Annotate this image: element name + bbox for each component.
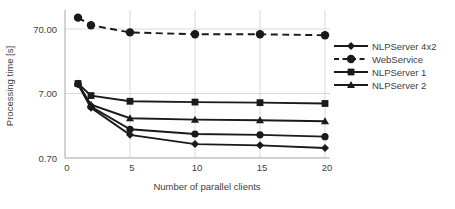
diamond-marker [256, 141, 264, 149]
legend-item-nlpserver-2: NLPServer 2 [334, 80, 426, 91]
x-axis-title: Number of parallel clients [153, 181, 260, 192]
circle-marker [126, 126, 133, 133]
x-tick-label: 15 [257, 162, 268, 173]
legend-item-nlpserver-1: NLPServer 1 [334, 67, 426, 78]
y-tick-label: 7.00 [39, 88, 58, 99]
circle-marker [74, 80, 81, 87]
square-marker [348, 69, 355, 76]
circle-marker [87, 103, 94, 110]
diamond-marker [321, 144, 329, 152]
x-tick-label: 0 [64, 162, 69, 173]
square-marker [257, 99, 264, 106]
circle-marker [321, 133, 328, 140]
x-tick-label: 20 [322, 162, 333, 173]
legend-label: NLPServer 1 [372, 67, 426, 78]
circle-marker [191, 30, 199, 38]
circle-marker [347, 55, 355, 63]
chart-svg: 70.007.000.70 05101520 Processing time [… [0, 0, 455, 209]
legend-label: NLPServer 2 [372, 80, 426, 91]
legend-item-nlpserver-4x2: NLPServer 4x2 [334, 41, 436, 52]
processing-time-chart: 70.007.000.70 05101520 Processing time [… [0, 0, 455, 209]
square-marker [88, 92, 95, 99]
square-marker [192, 99, 199, 106]
legend-label: NLPServer 4x2 [372, 41, 436, 52]
series-line-unlabeled [78, 84, 325, 137]
x-tick-label: 10 [192, 162, 203, 173]
y-tick-label: 0.70 [39, 153, 58, 164]
y-axis-title: Processing time [s] [4, 46, 15, 126]
series-lines [74, 13, 329, 152]
legend-item-webservice: WebService [334, 54, 423, 65]
x-tick-labels: 05101520 [64, 162, 332, 173]
circle-marker [74, 13, 82, 21]
square-marker [127, 98, 134, 105]
circle-marker [256, 131, 263, 138]
circle-marker [256, 30, 264, 38]
square-marker [322, 100, 329, 107]
circle-marker [126, 28, 134, 36]
circle-marker [321, 31, 329, 39]
diamond-marker [191, 140, 199, 148]
circle-marker [191, 130, 198, 137]
diamond-marker [347, 42, 355, 50]
legend: NLPServer 4x2WebServiceNLPServer 1NLPSer… [334, 41, 436, 91]
x-tick-label: 5 [129, 162, 134, 173]
legend-label: WebService [372, 54, 423, 65]
series-line-webservice [78, 18, 325, 36]
y-tick-labels: 70.007.000.70 [33, 24, 57, 164]
circle-marker [87, 21, 95, 29]
y-tick-label: 70.00 [33, 24, 57, 35]
